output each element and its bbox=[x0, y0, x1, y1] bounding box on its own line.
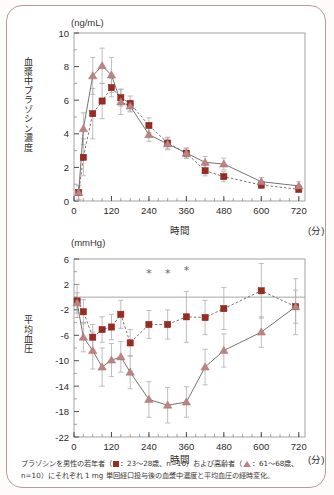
caption-text-post: ：61〜68歳、 bbox=[252, 459, 298, 468]
svg-text:-6: -6 bbox=[61, 330, 69, 341]
square-marker-icon bbox=[113, 461, 119, 467]
svg-text:-14: -14 bbox=[55, 381, 69, 392]
figure-inner: (ng/mL) 血漿中プラゾシン濃度 012024036048060072002… bbox=[18, 15, 314, 478]
triangle-marker-icon bbox=[243, 461, 251, 467]
svg-text:4: 4 bbox=[64, 128, 69, 139]
svg-text:120: 120 bbox=[104, 441, 120, 452]
svg-text:8: 8 bbox=[64, 61, 69, 72]
svg-text:240: 240 bbox=[141, 441, 157, 452]
svg-text:*: * bbox=[146, 267, 152, 280]
mean-blood-pressure-chart: 012024036048060072062-2-6-10-14-18-22*** bbox=[18, 243, 314, 458]
figure-page: (ng/mL) 血漿中プラゾシン濃度 012024036048060072002… bbox=[0, 0, 334, 495]
svg-text:720: 720 bbox=[291, 205, 307, 216]
svg-text:720: 720 bbox=[291, 441, 307, 452]
figure-frame: (ng/mL) 血漿中プラゾシン濃度 012024036048060072002… bbox=[6, 5, 326, 488]
svg-text:480: 480 bbox=[216, 441, 232, 452]
top-chart-x-axis-label: 時間 bbox=[170, 223, 190, 237]
svg-text:0: 0 bbox=[71, 205, 76, 216]
top-chart-y-axis-label: 血漿中プラゾシン濃度 bbox=[23, 57, 33, 152]
svg-text:360: 360 bbox=[178, 205, 194, 216]
caption-text-line2: n=10）にそれぞれ 1 mg 単回経口投与後の血漿中濃度と平均血圧の経時変化。 bbox=[21, 471, 274, 480]
svg-text:2: 2 bbox=[64, 162, 69, 173]
svg-text:-10: -10 bbox=[55, 355, 69, 366]
top-chart-x-unit-label: (分) bbox=[308, 223, 324, 237]
svg-text:360: 360 bbox=[178, 441, 194, 452]
svg-text:0: 0 bbox=[64, 196, 69, 207]
top-chart-unit-label: (ng/mL) bbox=[71, 17, 104, 28]
svg-text:0: 0 bbox=[71, 441, 76, 452]
svg-text:*: * bbox=[165, 267, 171, 280]
svg-text:-2: -2 bbox=[61, 304, 69, 315]
figure-caption: プラゾシンを男性の若年者（：23〜28歳、n=10）および高齢者（：61〜68歳… bbox=[21, 458, 321, 481]
svg-text:-18: -18 bbox=[55, 406, 69, 417]
svg-text:480: 480 bbox=[216, 205, 232, 216]
svg-text:120: 120 bbox=[104, 205, 120, 216]
svg-text:600: 600 bbox=[253, 205, 269, 216]
svg-text:*: * bbox=[184, 264, 190, 277]
svg-text:-22: -22 bbox=[55, 432, 69, 443]
caption-text-pre: プラゾシンを男性の若年者（ bbox=[21, 459, 112, 468]
svg-text:2: 2 bbox=[64, 279, 69, 290]
svg-text:240: 240 bbox=[141, 205, 157, 216]
caption-text-mid: ：23〜28歳、n=10）および高齢者（ bbox=[120, 459, 242, 468]
svg-text:6: 6 bbox=[64, 254, 69, 265]
svg-text:600: 600 bbox=[253, 441, 269, 452]
svg-text:10: 10 bbox=[58, 28, 69, 39]
plasma-concentration-chart: 01202403604806007200246810 bbox=[18, 15, 314, 220]
svg-text:6: 6 bbox=[64, 95, 69, 106]
